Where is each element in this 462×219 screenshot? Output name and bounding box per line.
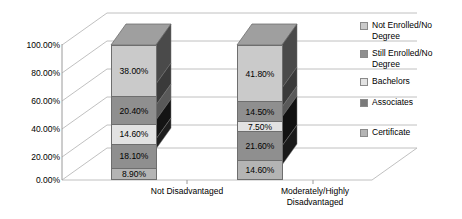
bar-2-label-associates: 21.60% — [238, 141, 282, 151]
bar-2-front-faces: 41.80% 14.50% 7.50% 21.60% 14.60% — [237, 45, 283, 180]
depth-line-20 — [62, 125, 107, 157]
bar-2-segment-bachelors[interactable]: 7.50% — [237, 121, 283, 131]
legend-swatch-icon — [360, 50, 368, 58]
bar-1-segment-still-enrolled[interactable]: 20.40% — [111, 96, 157, 124]
depth-line-100 — [62, 13, 107, 45]
bar-2-label-certificate: 14.60% — [238, 165, 282, 175]
legend-swatch-icon — [360, 78, 368, 86]
x-category-label-1: Not Disadvantaged — [122, 186, 252, 197]
bar-not-disadvantaged[interactable]: 38.00% 20.40% 14.60% 18.10% 8.90% — [111, 45, 157, 180]
bar-2-segment-certificate[interactable]: 14.60% — [237, 160, 283, 180]
legend-item-not-enrolled[interactable]: Not Enrolled/No Degree — [360, 20, 460, 41]
bar-1-front-faces: 38.00% 20.40% 14.60% 18.10% 8.90% — [111, 45, 157, 180]
legend-label: Certificate — [372, 127, 410, 138]
legend-item-still-enrolled[interactable]: Still Enrolled/No Degree — [360, 48, 460, 69]
bar-1-label-associates: 18.10% — [112, 151, 156, 161]
legend-label: Still Enrolled/No Degree — [372, 48, 460, 69]
legend: Not Enrolled/No Degree Still Enrolled/No… — [360, 20, 460, 145]
legend-swatch-icon — [360, 129, 368, 137]
legend-label: Associates — [372, 97, 413, 108]
bar-1-label-certificate: 8.90% — [112, 169, 156, 179]
bar-2-label-bachelors: 7.50% — [238, 122, 282, 132]
floor-right-depth-edge — [372, 148, 417, 180]
bar-2-segment-still-enrolled[interactable]: 14.50% — [237, 101, 283, 121]
bar-1-label-not-enrolled: 38.00% — [112, 66, 156, 76]
legend-item-associates[interactable]: Associates — [360, 97, 460, 108]
depth-line-0 — [62, 148, 107, 180]
bar-1-label-bachelors: 14.60% — [112, 129, 156, 139]
legend-label: Not Enrolled/No Degree — [372, 20, 460, 41]
legend-item-bachelors[interactable]: Bachelors — [360, 76, 460, 87]
legend-item-certificate[interactable]: Certificate — [360, 127, 460, 138]
bar-2-segment-associates[interactable]: 21.60% — [237, 131, 283, 160]
stacked-column-chart: 100.00% 80.00% 60.00% 40.00% 20.00% 0.00… — [0, 0, 462, 219]
x-category-label-2: Moderately/Highly Disadvantaged — [255, 186, 375, 208]
bar-1-segment-not-enrolled[interactable]: 38.00% — [111, 45, 157, 96]
legend-swatch-icon — [360, 22, 368, 30]
bar-1-segment-certificate[interactable]: 8.90% — [111, 168, 157, 180]
bar-1-segment-associates[interactable]: 18.10% — [111, 144, 157, 168]
bar-2-label-not-enrolled: 41.80% — [238, 69, 282, 79]
legend-label: Bachelors — [372, 76, 410, 87]
depth-line-80 — [62, 41, 107, 73]
legend-swatch-icon — [360, 99, 368, 107]
depth-line-60 — [62, 69, 107, 101]
bar-1-label-still-enrolled: 20.40% — [112, 106, 156, 116]
bar-1-segment-bachelors[interactable]: 14.60% — [111, 124, 157, 144]
depth-line-40 — [62, 97, 107, 129]
bar-2-segment-not-enrolled[interactable]: 41.80% — [237, 45, 283, 101]
bar-2-label-still-enrolled: 14.50% — [238, 107, 282, 117]
bar-moderately-highly-disadvantaged[interactable]: 41.80% 14.50% 7.50% 21.60% 14.60% — [237, 45, 283, 180]
